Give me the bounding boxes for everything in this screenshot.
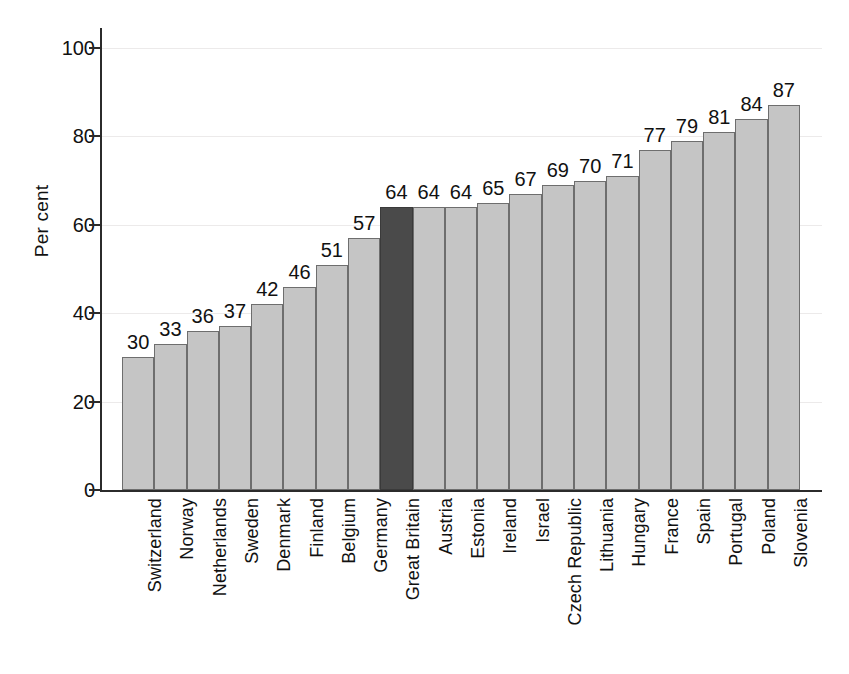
bar[interactable] [219, 326, 251, 490]
x-label-slot: France [639, 498, 671, 668]
bar-group[interactable]: 42 [251, 28, 283, 490]
bar-group[interactable]: 57 [348, 28, 380, 490]
x-category-label: Slovenia [791, 498, 812, 568]
bar-value-label: 64 [418, 182, 440, 202]
x-label-slot: Ireland [477, 498, 509, 668]
x-label-slot: Germany [348, 498, 380, 668]
y-axis-line [100, 28, 102, 492]
bar-value-label: 57 [353, 213, 375, 233]
x-label-slot: Netherlands [187, 498, 219, 668]
y-tick-label: 60 [35, 215, 95, 235]
x-label-slot: Portugal [703, 498, 735, 668]
bar[interactable] [413, 207, 445, 490]
bar-group[interactable]: 46 [283, 28, 315, 490]
bar[interactable] [348, 238, 380, 490]
bar-group[interactable]: 65 [477, 28, 509, 490]
x-label-slot: Estonia [445, 498, 477, 668]
bar[interactable] [703, 132, 735, 490]
bar-value-label: 30 [127, 332, 149, 352]
x-label-slot: Norway [154, 498, 186, 668]
x-label-slot: Denmark [251, 498, 283, 668]
y-tick-label: 0 [35, 480, 95, 500]
bar-value-label: 67 [514, 169, 536, 189]
bar-value-label: 79 [676, 116, 698, 136]
bar-group[interactable]: 64 [413, 28, 445, 490]
x-label-slot: Austria [413, 498, 445, 668]
bar-group[interactable]: 70 [574, 28, 606, 490]
bar[interactable] [154, 344, 186, 490]
bar[interactable] [671, 141, 703, 490]
bar[interactable] [639, 150, 671, 490]
x-label-slot: Israel [509, 498, 541, 668]
bar-group[interactable]: 69 [542, 28, 574, 490]
bar-value-label: 65 [482, 178, 504, 198]
x-label-slot: Poland [735, 498, 767, 668]
x-label-slot: Spain [671, 498, 703, 668]
bar-value-label: 70 [579, 156, 601, 176]
bar-group[interactable]: 87 [768, 28, 800, 490]
bar-group[interactable]: 33 [154, 28, 186, 490]
bar-value-label: 42 [256, 279, 278, 299]
x-label-slot: Great Britain [380, 498, 412, 668]
bar[interactable] [187, 331, 219, 490]
y-tick-label: 100 [35, 38, 95, 58]
bar[interactable] [477, 203, 509, 490]
bar-group[interactable]: 64 [380, 28, 412, 490]
bar[interactable] [251, 304, 283, 490]
bar-highlighted[interactable] [380, 207, 412, 490]
x-label-slot: Switzerland [122, 498, 154, 668]
bar-value-label: 69 [547, 160, 569, 180]
bar-value-label: 81 [708, 107, 730, 127]
bar-group[interactable]: 64 [445, 28, 477, 490]
bar-group[interactable]: 51 [316, 28, 348, 490]
bar-group[interactable]: 77 [639, 28, 671, 490]
bar-group[interactable]: 84 [735, 28, 767, 490]
y-axis-tick-labels: 020406080100 [20, 0, 95, 674]
y-tick-label: 40 [35, 303, 95, 323]
bar-value-label: 46 [288, 262, 310, 282]
bar-value-label: 36 [192, 306, 214, 326]
bar[interactable] [606, 176, 638, 490]
bar-group[interactable]: 71 [606, 28, 638, 490]
bar[interactable] [574, 181, 606, 490]
bar-group[interactable]: 30 [122, 28, 154, 490]
bar-value-label: 64 [385, 182, 407, 202]
bar[interactable] [509, 194, 541, 490]
bar-group[interactable]: 81 [703, 28, 735, 490]
bar-value-label: 33 [159, 319, 181, 339]
bar[interactable] [122, 357, 154, 490]
x-label-slot: Slovenia [768, 498, 800, 668]
bar-value-label: 84 [740, 94, 762, 114]
bar-group[interactable]: 37 [219, 28, 251, 490]
plot-area: 3033363742465157646464656769707177798184… [122, 28, 800, 490]
bar-value-label: 87 [773, 80, 795, 100]
x-label-slot: Sweden [219, 498, 251, 668]
bar-value-label: 64 [450, 182, 472, 202]
bar-value-label: 77 [644, 125, 666, 145]
x-label-slot: Finland [283, 498, 315, 668]
bar[interactable] [768, 105, 800, 490]
bar-value-label: 51 [321, 240, 343, 260]
x-label-slot: Belgium [316, 498, 348, 668]
bar[interactable] [735, 119, 767, 490]
x-label-slot: Hungary [606, 498, 638, 668]
bar-group[interactable]: 67 [509, 28, 541, 490]
x-label-slot: Czech Republic [542, 498, 574, 668]
x-axis-category-labels: SwitzerlandNorwayNetherlandsSwedenDenmar… [122, 498, 800, 668]
bar-group[interactable]: 36 [187, 28, 219, 490]
y-tick-label: 80 [35, 126, 95, 146]
bar-group[interactable]: 79 [671, 28, 703, 490]
bar[interactable] [542, 185, 574, 490]
bar-value-label: 37 [224, 301, 246, 321]
bar-value-label: 71 [611, 151, 633, 171]
x-label-slot: Lithuania [574, 498, 606, 668]
x-axis-line [100, 490, 822, 492]
bar-chart: Per cent 020406080100 303336374246515764… [0, 0, 849, 674]
y-tick-label: 20 [35, 392, 95, 412]
bar[interactable] [445, 207, 477, 490]
bar[interactable] [283, 287, 315, 490]
bar[interactable] [316, 265, 348, 490]
